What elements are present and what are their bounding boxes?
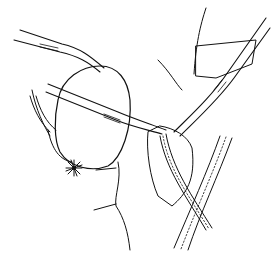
suture-knot bbox=[66, 160, 82, 176]
left-clamp bbox=[30, 96, 56, 132]
right-forceps bbox=[174, 18, 270, 136]
tissue-flap bbox=[147, 126, 192, 206]
retracted-tissue bbox=[158, 8, 256, 90]
body-outline bbox=[32, 90, 130, 250]
upper-left-forceps bbox=[14, 30, 104, 72]
round-organ bbox=[55, 66, 130, 169]
middle-left-forceps bbox=[46, 84, 166, 134]
tubular-vessel-right bbox=[174, 136, 232, 250]
tubular-vessel-left bbox=[160, 134, 212, 230]
line-art bbox=[0, 0, 273, 254]
surgical-illustration bbox=[0, 0, 273, 254]
